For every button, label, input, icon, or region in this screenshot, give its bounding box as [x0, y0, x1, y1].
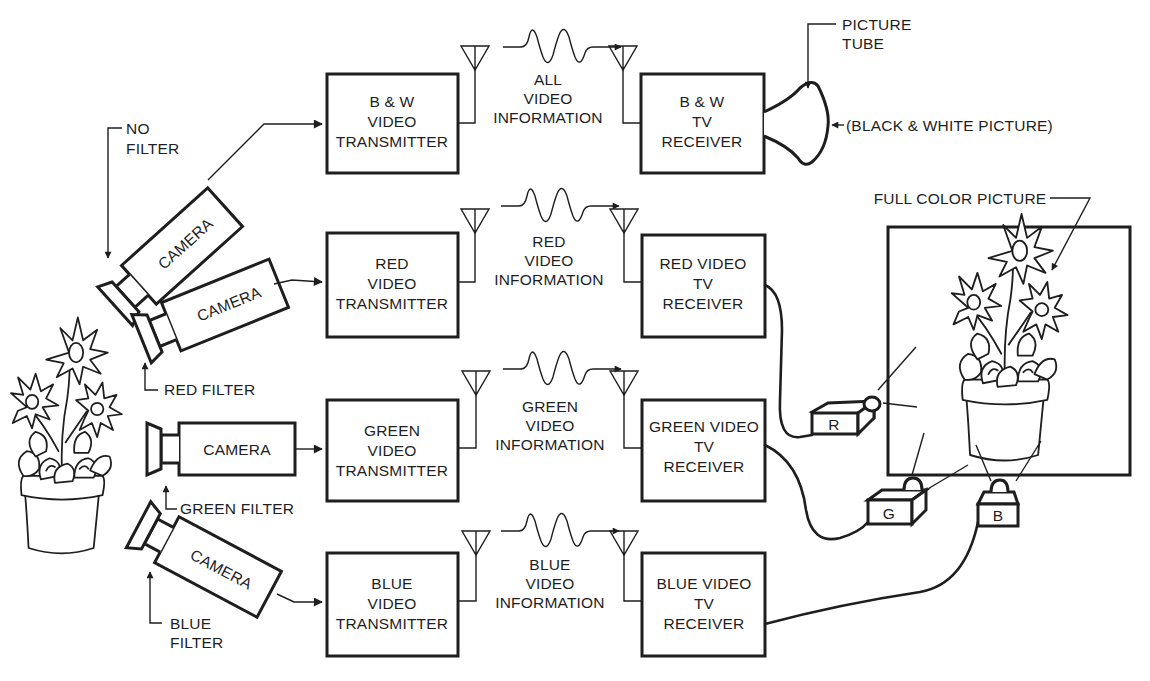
svg-text:TV: TV: [692, 113, 713, 130]
svg-text:VIDEO: VIDEO: [523, 90, 572, 107]
no-filter-label-2: FILTER: [126, 140, 179, 157]
svg-text:RECEIVER: RECEIVER: [662, 133, 743, 150]
camera-label: CAMERA: [203, 441, 271, 458]
svg-text:ALL: ALL: [534, 71, 562, 88]
antenna-icon: [610, 531, 638, 555]
svg-text:B & W: B & W: [680, 93, 725, 110]
signal-wave-icon: [503, 351, 621, 384]
svg-text:INFORMATION: INFORMATION: [494, 271, 604, 288]
picture-tube-label: PICTURE: [842, 16, 911, 33]
svg-text:RED VIDEO: RED VIDEO: [659, 255, 746, 272]
svg-text:GREEN VIDEO: GREEN VIDEO: [649, 418, 759, 435]
svg-text:RED: RED: [532, 233, 565, 250]
antenna-icon: [461, 209, 489, 233]
svg-text:INFORMATION: INFORMATION: [495, 436, 605, 453]
projector-label: B: [993, 507, 1004, 524]
svg-text:TRANSMITTER: TRANSMITTER: [336, 462, 448, 479]
svg-text:TV: TV: [693, 275, 714, 292]
svg-text:VIDEO: VIDEO: [367, 442, 416, 459]
svg-text:TRANSMITTER: TRANSMITTER: [336, 133, 448, 150]
receiver-red: RED VIDEO TV RECEIVER: [642, 235, 765, 337]
svg-text:GREEN: GREEN: [522, 398, 578, 415]
red-filter-label: RED FILTER: [164, 381, 255, 398]
projector-red: R: [812, 397, 880, 434]
signal-wave-icon: [501, 513, 619, 546]
receiver-green: GREEN VIDEO TV RECEIVER: [642, 400, 765, 501]
antenna-icon: [609, 46, 637, 70]
projector-label: R: [828, 416, 839, 433]
svg-text:BLUE: BLUE: [529, 556, 570, 573]
svg-text:VIDEO: VIDEO: [367, 275, 416, 292]
receiver-bw: B & W TV RECEIVER: [641, 74, 764, 173]
antenna-icon: [462, 371, 490, 395]
svg-text:INFORMATION: INFORMATION: [495, 594, 605, 611]
bw-picture-output-label: (BLACK & WHITE PICTURE): [846, 117, 1053, 134]
antenna-icon: [610, 371, 638, 395]
svg-text:VIDEO: VIDEO: [524, 252, 573, 269]
svg-text:TV: TV: [694, 595, 715, 612]
svg-text:VIDEO: VIDEO: [525, 575, 574, 592]
svg-text:VIDEO: VIDEO: [525, 417, 574, 434]
full-color-picture-label: FULL COLOR PICTURE: [874, 190, 1047, 207]
no-filter-label: NO: [126, 120, 150, 137]
svg-text:BLUE: BLUE: [371, 575, 412, 592]
svg-text:TRANSMITTER: TRANSMITTER: [336, 295, 448, 312]
antenna-icon: [610, 209, 638, 233]
transmitter-bw: B & W VIDEO TRANSMITTER: [327, 74, 458, 173]
signal-label-green: GREEN VIDEO INFORMATION: [495, 398, 605, 453]
svg-text:INFORMATION: INFORMATION: [493, 109, 603, 126]
green-filter-label: GREEN FILTER: [180, 500, 294, 517]
transmitter-blue: BLUE VIDEO TRANSMITTER: [327, 553, 458, 656]
svg-text:RECEIVER: RECEIVER: [664, 615, 745, 632]
svg-text:RED: RED: [375, 255, 408, 272]
transmitter-green: GREEN VIDEO TRANSMITTER: [327, 400, 458, 501]
svg-text:RECEIVER: RECEIVER: [663, 295, 744, 312]
transmitter-red: RED VIDEO TRANSMITTER: [327, 233, 458, 337]
receiver-blue: BLUE VIDEO TV RECEIVER: [642, 553, 765, 656]
signal-wave-icon: [501, 188, 619, 221]
blue-filter-label: BLUE: [170, 615, 211, 632]
full-color-screen: [888, 214, 1130, 475]
subject-plant-icon: [11, 317, 122, 553]
projector-blue: B: [978, 480, 1018, 526]
picture-tube-icon: [764, 82, 828, 164]
svg-text:GREEN: GREEN: [364, 422, 420, 439]
camera-green-filter: CAMERA: [147, 423, 295, 475]
svg-text:VIDEO: VIDEO: [367, 595, 416, 612]
svg-text:TRANSMITTER: TRANSMITTER: [336, 615, 448, 632]
antenna-icon: [461, 46, 489, 70]
svg-text:B & W: B & W: [370, 93, 415, 110]
antenna-icon: [462, 531, 490, 555]
signal-label-blue: BLUE VIDEO INFORMATION: [495, 556, 605, 611]
blue-filter-label-2: FILTER: [170, 634, 223, 651]
projector-green: G: [868, 478, 926, 524]
svg-text:BLUE VIDEO: BLUE VIDEO: [656, 575, 751, 592]
signal-label-all: ALL VIDEO INFORMATION: [493, 71, 603, 126]
svg-text:TV: TV: [694, 438, 715, 455]
signal-wave-icon: [503, 29, 621, 62]
svg-text:VIDEO: VIDEO: [367, 113, 416, 130]
color-tv-block-diagram: CAMERA NO FILTER B & W VIDEO TRANSMITTER…: [0, 0, 1150, 681]
signal-label-red: RED VIDEO INFORMATION: [494, 233, 604, 288]
svg-text:RECEIVER: RECEIVER: [664, 458, 745, 475]
picture-tube-label-2: TUBE: [842, 35, 884, 52]
projector-label: G: [883, 505, 895, 522]
